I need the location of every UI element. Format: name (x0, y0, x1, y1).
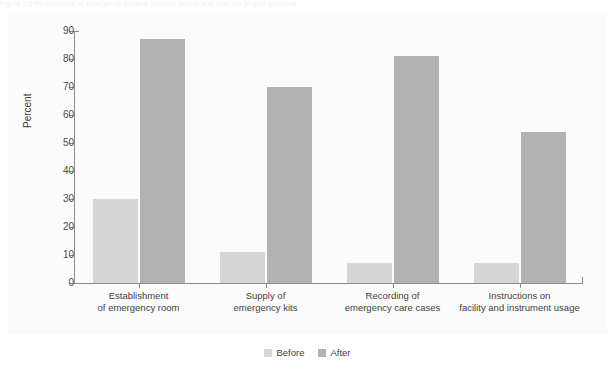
chart-legend: BeforeAfter (0, 348, 615, 358)
x-axis-tick-mark (139, 284, 140, 288)
bar-after (267, 87, 312, 283)
y-axis-tick: 30 (0, 199, 74, 200)
bar-group (474, 31, 566, 283)
y-axis-tick-label: 0 (22, 278, 74, 288)
y-axis-tick: 0 (0, 283, 74, 284)
y-axis-tick: 80 (0, 59, 74, 60)
bar-group-container (75, 31, 583, 283)
figure-container: Figure 2.6 Performance of emergency medi… (0, 0, 615, 379)
bar-after (394, 56, 439, 283)
y-axis-tick-label: 80 (22, 54, 74, 64)
y-axis-tick: 10 (0, 255, 74, 256)
y-axis-tick: 50 (0, 143, 74, 144)
x-axis-line (74, 283, 583, 284)
y-axis-tick: 70 (0, 87, 74, 88)
x-axis-category-label: Recording of emergency care cases (329, 290, 456, 314)
bar-before (220, 252, 265, 283)
bar-group (220, 31, 312, 283)
y-axis-tick-label: 30 (22, 194, 74, 204)
legend-swatch-icon (264, 349, 272, 357)
bar-before (93, 199, 138, 283)
y-axis-tick: 40 (0, 171, 74, 172)
x-axis-category-label: Supply of emergency kits (202, 290, 329, 314)
chart-plot-area: 0102030405060708090 Percent Establishmen… (0, 0, 615, 379)
y-axis-tick-label: 50 (22, 138, 74, 148)
y-axis-tick-label: 40 (22, 166, 74, 176)
y-axis-tick-label: 20 (22, 222, 74, 232)
bar-before (347, 263, 392, 283)
legend-label: Before (276, 348, 304, 358)
bar-after (521, 132, 566, 283)
x-axis-tick-mark (520, 284, 521, 288)
x-axis-tick-mark (393, 284, 394, 288)
y-axis-tick: 20 (0, 227, 74, 228)
y-axis-tick-label: 70 (22, 82, 74, 92)
y-axis-tick-label: 10 (22, 250, 74, 260)
legend-swatch-icon (318, 349, 326, 357)
y-axis-tick-label: 90 (22, 26, 74, 36)
bar-group (347, 31, 439, 283)
y-axis-tick: 60 (0, 115, 74, 116)
legend-label: After (330, 348, 350, 358)
legend-item-after[interactable]: After (318, 348, 350, 358)
legend-item-before[interactable]: Before (264, 348, 304, 358)
x-axis-category-label: Instructions on facility and instrument … (456, 290, 583, 314)
x-axis-category-label: Establishment of emergency room (75, 290, 202, 314)
x-axis-tick-mark (266, 284, 267, 288)
y-axis-tick: 90 (0, 31, 74, 32)
bar-before (474, 263, 519, 283)
bar-after (140, 39, 185, 283)
y-axis-title: Percent (22, 94, 33, 128)
bar-group (93, 31, 185, 283)
